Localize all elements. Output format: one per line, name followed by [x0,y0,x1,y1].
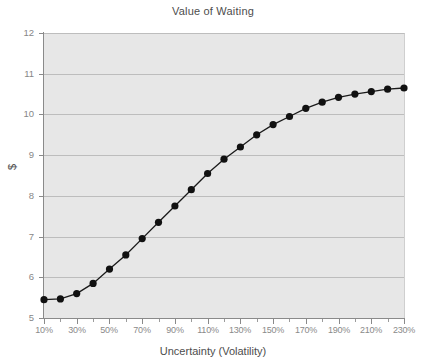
x-tick-minor [388,319,389,322]
y-tick-label: 10 [4,108,34,119]
y-axis-title: $ [6,164,18,170]
x-tick-major [404,319,405,324]
gridline [44,277,404,278]
x-tick-minor [159,319,160,322]
y-tick-mark [39,114,44,115]
x-tick-major [175,319,176,324]
gridline [44,155,404,156]
gridline [44,74,404,75]
gridline [44,33,404,34]
y-tick-mark [39,237,44,238]
gridline [44,196,404,197]
x-tick-major [240,319,241,324]
x-tick-major [371,319,372,324]
y-tick-mark [39,277,44,278]
x-tick-major [273,319,274,324]
y-axis-line [43,32,44,319]
x-tick-label: 230% [384,325,424,335]
chart-container: Value of Waiting 56789101112 10%30%50%70… [0,0,426,363]
gridline [44,114,404,115]
y-tick-label: 5 [4,312,34,323]
x-tick-minor [191,319,192,322]
x-tick-minor [93,319,94,322]
y-tick-label: 11 [4,68,34,79]
x-tick-major [77,319,78,324]
x-tick-minor [224,319,225,322]
gridline [44,237,404,238]
x-tick-minor [257,319,258,322]
x-tick-minor [126,319,127,322]
y-tick-mark [39,196,44,197]
y-tick-label: 6 [4,271,34,282]
y-tick-label: 9 [4,149,34,160]
x-tick-major [208,319,209,324]
x-tick-minor [355,319,356,322]
x-tick-major [109,319,110,324]
x-tick-major [44,319,45,324]
x-tick-minor [322,319,323,322]
y-tick-label: 8 [4,190,34,201]
x-tick-major [339,319,340,324]
y-tick-mark [39,74,44,75]
x-tick-minor [60,319,61,322]
x-axis-title: Uncertainty (Volatility) [0,345,426,357]
x-tick-major [142,319,143,324]
chart-title: Value of Waiting [0,5,426,17]
x-tick-major [306,319,307,324]
y-tick-mark [39,155,44,156]
y-tick-label: 7 [4,231,34,242]
y-tick-mark [39,33,44,34]
y-tick-label: 12 [4,27,34,38]
x-tick-minor [289,319,290,322]
